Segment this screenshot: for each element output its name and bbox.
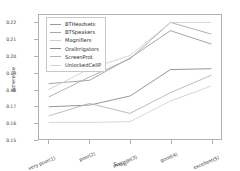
legend-item-label: OralIrrigators: [65, 46, 99, 52]
legend-item[interactable]: BTHeadsets: [50, 20, 101, 28]
x-axis-tick-mark: [212, 140, 213, 144]
legend-item[interactable]: ScreenProt: [50, 53, 101, 61]
legend-item[interactable]: BTSpeakers: [50, 28, 101, 36]
legend-item[interactable]: Magnifiers: [50, 36, 101, 44]
y-axis-tick-mark: [34, 140, 38, 141]
legend-item[interactable]: UnlockedCellP: [50, 61, 101, 69]
legend-color-swatch: [50, 56, 61, 57]
x-axis-tick-mark: [130, 140, 131, 144]
legend-item-label: UnlockedCellP: [65, 62, 101, 68]
x-axis-tick-mark: [48, 140, 49, 144]
legend-color-swatch: [50, 32, 61, 33]
legend-color-swatch: [50, 65, 61, 66]
x-axis-tick-mark: [89, 140, 90, 144]
legend-item-label: Magnifiers: [65, 37, 91, 43]
y-axis-tick-label: 0.15: [0, 138, 16, 143]
y-axis-tick-label: 0.22: [0, 20, 16, 25]
x-axis-label: Score: [0, 161, 240, 167]
legend: BTHeadsetsBTSpeakersMagnifiersOralIrriga…: [46, 17, 106, 72]
y-axis-tick-label: 0.16: [0, 121, 16, 126]
legend-item[interactable]: OralIrrigators: [50, 45, 101, 53]
y-axis-label: Adherence: [11, 50, 16, 110]
series-line: [49, 69, 211, 107]
legend-color-swatch: [50, 40, 61, 41]
line-chart-figure: 0.150.160.170.180.190.200.210.22 Adheren…: [0, 0, 240, 171]
legend-item-label: BTSpeakers: [65, 29, 95, 35]
series-line: [49, 86, 211, 122]
legend-color-swatch: [50, 24, 61, 25]
legend-color-swatch: [50, 48, 61, 49]
legend-item-label: ScreenProt: [65, 54, 93, 60]
x-axis-tick-mark: [171, 140, 172, 144]
y-axis-tick-label: 0.21: [0, 37, 16, 42]
legend-item-label: BTHeadsets: [65, 21, 95, 27]
